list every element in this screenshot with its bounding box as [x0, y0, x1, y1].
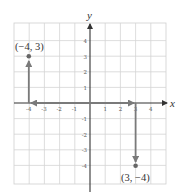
point-neg4-3	[27, 54, 32, 59]
x-tick: -1	[72, 106, 77, 112]
point-3-neg4	[133, 164, 138, 169]
y-tick: 3	[84, 54, 88, 60]
y-tick: -3	[82, 147, 88, 153]
point-label-neg4-3: (−4, 3)	[15, 41, 44, 53]
y-tick: 1	[84, 85, 88, 91]
x-tick: 4	[149, 106, 153, 112]
y-tick: -1	[82, 116, 87, 122]
point-label-3-neg4: (3, −4)	[121, 172, 150, 184]
y-tick: 2	[84, 69, 88, 75]
y-tick: -4	[82, 163, 88, 169]
path-to-3-neg4	[90, 103, 136, 162]
x-tick: 2	[119, 106, 123, 112]
x-tick: -3	[41, 106, 47, 112]
y-tick: 4	[84, 38, 88, 44]
y-tick: -2	[82, 132, 87, 138]
x-tick: 1	[103, 106, 107, 112]
x-axis-label: x	[169, 97, 175, 109]
x-tick: -4	[26, 106, 32, 112]
coordinate-plane: x y -4 -3 -2 -1 1 2 3 4 4 3 2 1 -1 -2 -3…	[0, 0, 183, 194]
x-tick: -2	[57, 106, 62, 112]
y-axis-label: y	[86, 9, 92, 21]
